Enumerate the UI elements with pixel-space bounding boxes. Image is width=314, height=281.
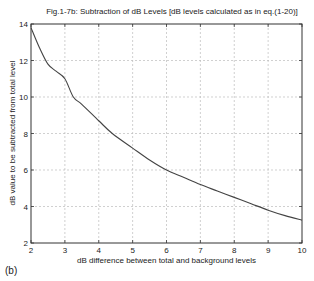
x-tick-label: 3 <box>63 246 68 255</box>
x-tick-label: 6 <box>164 246 169 255</box>
y-axis-label: dB value to be subtracted from total lev… <box>8 61 17 206</box>
x-tick-label: 7 <box>198 246 203 255</box>
x-tick-label: 9 <box>266 246 271 255</box>
x-tick-label: 10 <box>298 246 307 255</box>
x-tick-label: 5 <box>130 246 135 255</box>
x-tick-label: 2 <box>29 246 34 255</box>
y-tick-label: 4 <box>24 203 29 212</box>
grid-lines <box>31 24 302 243</box>
x-tick-label: 8 <box>232 246 237 255</box>
y-tick-label: 6 <box>24 166 29 175</box>
y-tick-label: 8 <box>24 130 29 139</box>
y-tick-label: 12 <box>19 57 28 66</box>
axis-ticks: 23456789102468101214 <box>19 20 307 255</box>
x-tick-label: 4 <box>97 246 102 255</box>
line-chart: 23456789102468101214 <box>0 0 314 281</box>
panel-label: (b) <box>5 265 17 276</box>
y-tick-label: 10 <box>19 93 28 102</box>
x-axis-label: dB difference between total and backgrou… <box>31 256 302 265</box>
y-tick-label: 2 <box>24 239 29 248</box>
y-tick-label: 14 <box>19 20 28 29</box>
